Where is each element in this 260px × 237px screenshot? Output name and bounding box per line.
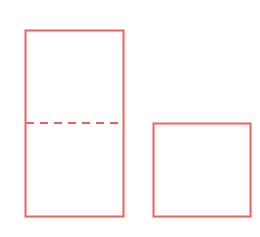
diagram-canvas bbox=[0, 0, 260, 237]
short-rectangle bbox=[154, 124, 251, 217]
